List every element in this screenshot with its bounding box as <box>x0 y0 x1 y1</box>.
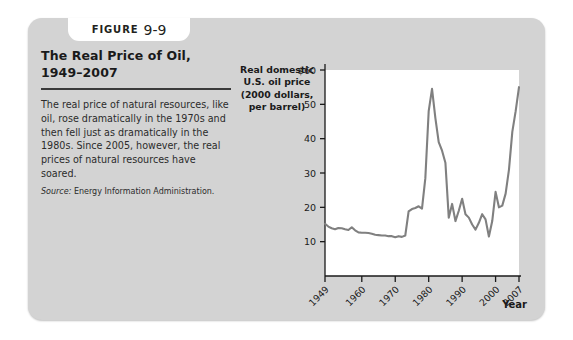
x-axis-tick-label: 2000 <box>477 284 502 309</box>
oil-price-line-chart: $605040302010194919601970198019902000200… <box>223 40 541 312</box>
title-divider <box>41 88 231 90</box>
x-axis-tick-label: 1970 <box>377 284 402 309</box>
y-axis-tick-label: 30 <box>304 168 316 179</box>
figure-tab-number: 9-9 <box>143 22 166 38</box>
figure-number-tab: Figure 9-9 <box>68 18 190 41</box>
y-axis-tick-label: 20 <box>304 202 316 213</box>
chart-container: Real domesticU.S. oil price(2000 dollars… <box>223 40 541 312</box>
y-axis-tick-label: 40 <box>304 133 316 144</box>
source-label: Source: <box>41 187 71 196</box>
x-axis-tick-label: 1960 <box>343 284 368 309</box>
y-axis-tick-label: 50 <box>304 99 316 110</box>
plot-background <box>325 70 519 276</box>
figure-title: The Real Price of Oil, 1949–2007 <box>41 48 231 81</box>
caption-column: The Real Price of Oil, 1949–2007 The rea… <box>41 48 231 197</box>
x-axis-tick-label: 1949 <box>306 284 331 309</box>
figure-tab-word: Figure <box>92 24 139 35</box>
x-axis-tick-label: 2007 <box>500 284 525 309</box>
caption-text: The real price of natural resources, lik… <box>41 98 231 181</box>
figure-card: Figure 9-9 The Real Price of Oil, 1949–2… <box>28 18 545 320</box>
x-axis-tick-label: 1980 <box>410 284 435 309</box>
source-line: Source: Energy Information Administratio… <box>41 187 231 197</box>
y-axis-tick-label: $60 <box>298 65 316 76</box>
y-axis-tick-label: 10 <box>304 236 316 247</box>
x-axis-tick-label: 1990 <box>444 284 469 309</box>
source-text: Energy Information Administration. <box>74 187 214 196</box>
